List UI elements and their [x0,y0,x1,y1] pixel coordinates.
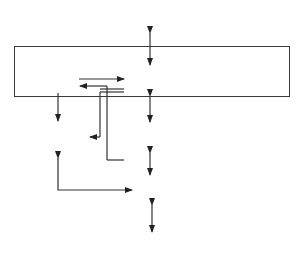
connector-lines [0,0,302,262]
system-box [14,46,290,97]
